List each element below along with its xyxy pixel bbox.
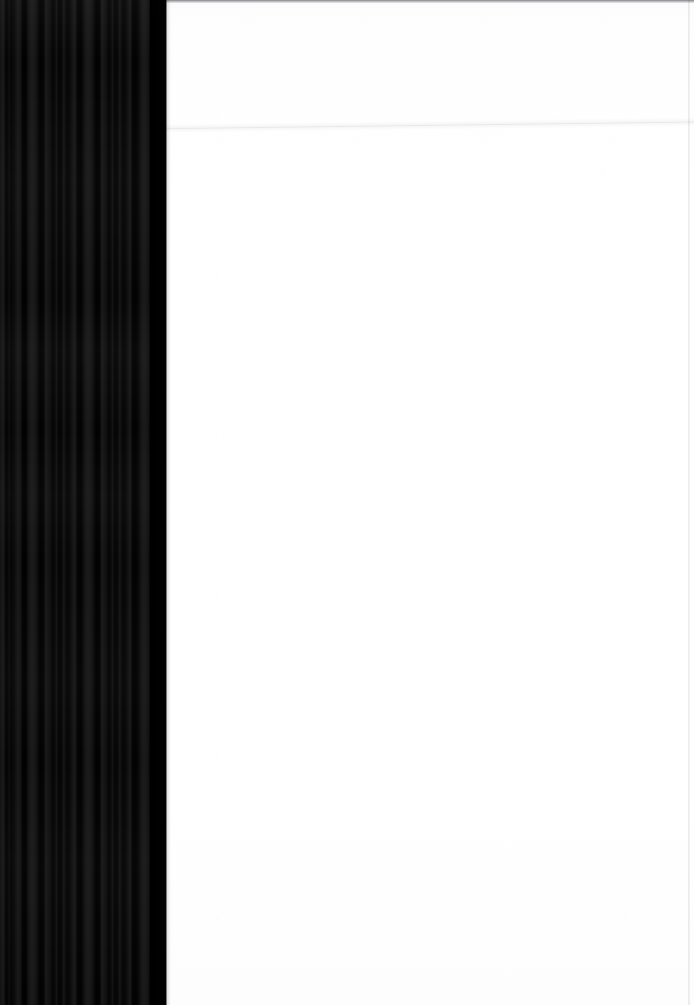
gutter-scanline-rows xyxy=(0,0,166,1005)
scanned-page-canvas xyxy=(0,0,694,1005)
page-right-edge xyxy=(688,0,690,1005)
binding-gutter-shadow xyxy=(0,0,166,1005)
gutter-shadow-falloff xyxy=(150,0,180,1005)
page-top-edge xyxy=(166,0,694,3)
blank-page-surface xyxy=(166,0,694,1005)
